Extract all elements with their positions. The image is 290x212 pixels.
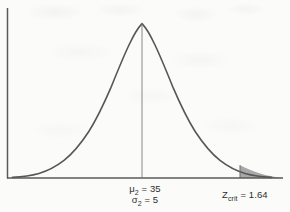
z-value: = 1.64 [238,189,268,200]
distribution-plot [0,0,290,212]
sd-value: = 5 [142,194,159,205]
z-critical-label: Zcrit = 1.64 [222,190,268,201]
z-subscript: crit [228,195,238,202]
normal-distribution-figure: μ2 = 35 σ2 = 5 Zcrit = 1.64 [0,0,290,212]
mean-value: = 35 [139,183,161,194]
